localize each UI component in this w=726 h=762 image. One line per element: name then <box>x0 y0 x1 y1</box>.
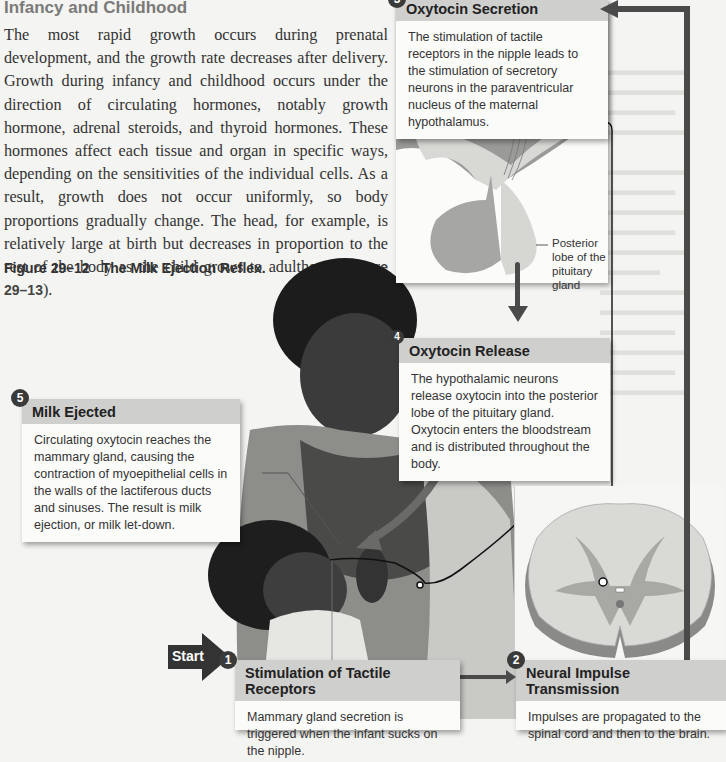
step-1-text: Mammary gland secretion is triggered whe… <box>235 701 460 762</box>
step-5-box: Milk Ejected Circulating oxytocin reache… <box>22 399 240 542</box>
ascending-arrow-horizontal <box>614 6 690 12</box>
transmission-arrow <box>460 675 508 679</box>
step-3-title: Oxytocin Secretion <box>396 0 608 21</box>
pituitary-label: Posterior lobe of the pituitary gland <box>552 236 612 292</box>
step-1-title: Stimulation of Tactile Receptors <box>235 660 460 701</box>
step-3-box: Oxytocin Secretion The stimulation of ta… <box>396 0 608 139</box>
release-arrow-shaft <box>515 262 520 310</box>
start-label: Start <box>172 648 204 664</box>
step-4-box: Oxytocin Release The hypothalamic neuron… <box>399 338 610 481</box>
spinal-cord-panel <box>514 486 725 662</box>
step-4-title: Oxytocin Release <box>399 338 610 363</box>
step-5-badge: 5 <box>11 389 29 407</box>
step-2-box: Neural Impulse Transmission Impulses are… <box>516 660 726 730</box>
step-5-text: Circulating oxytocin reaches the mammary… <box>22 424 240 542</box>
step-1-badge: 1 <box>219 651 237 669</box>
step-1-box: Stimulation of Tactile Receptors Mammary… <box>235 660 460 730</box>
step-2-text: Impulses are propagated to the spinal co… <box>516 701 726 751</box>
step-2-badge: 2 <box>507 651 525 669</box>
infant-hand <box>356 547 388 603</box>
step-3-text: The stimulation of tactile receptors in … <box>396 21 608 139</box>
step-4-badge: 4 <box>390 330 404 344</box>
spinal-cord-cross-section <box>515 486 725 662</box>
step-2-title: Neural Impulse Transmission <box>516 660 726 701</box>
ascending-arrow-vertical <box>684 6 690 666</box>
step-5-title: Milk Ejected <box>22 399 240 424</box>
step-4-text: The hypothalamic neurons release oxytoci… <box>399 363 610 481</box>
